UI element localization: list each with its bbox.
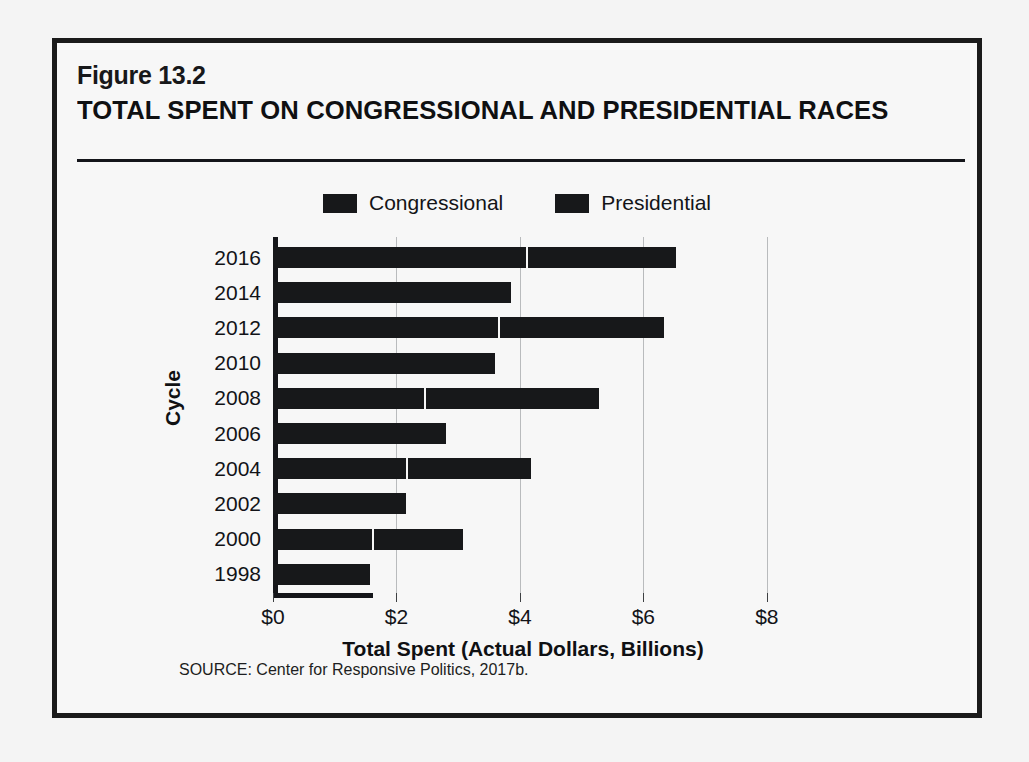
bar-segment-congressional: [273, 493, 406, 514]
y-tick-label: 2008: [191, 386, 261, 410]
bar-segment-congressional: [273, 282, 511, 303]
x-tick-mark: [396, 593, 397, 602]
gridline: [767, 237, 768, 593]
y-tick-label: 2002: [191, 492, 261, 516]
x-axis-title: Total Spent (Actual Dollars, Billions): [273, 637, 773, 661]
bar-segment-presidential: [424, 388, 599, 409]
y-tick-label: 2004: [191, 457, 261, 481]
y-tick-label: 2010: [191, 351, 261, 375]
bar-segment-congressional: [273, 317, 498, 338]
bar-segment-congressional: [273, 247, 526, 268]
bar-segment-congressional: [273, 353, 495, 374]
source-note: SOURCE: Center for Responsive Politics, …: [179, 661, 528, 679]
y-tick-label: 2014: [191, 281, 261, 305]
plot-area: Cycle $0$2$4$6$8 20162014201220102008200…: [57, 43, 977, 713]
x-axis-line: [273, 593, 373, 598]
y-tick-label: 2016: [191, 246, 261, 270]
x-tick-mark: [643, 593, 644, 602]
y-tick-label: 2006: [191, 422, 261, 446]
bar-segment-presidential: [526, 247, 676, 268]
y-tick-label: 2012: [191, 316, 261, 340]
x-tick-mark: [273, 593, 274, 602]
y-tick-label: 1998: [191, 562, 261, 586]
bar-segment-presidential: [372, 529, 464, 550]
y-axis-title: Cycle: [161, 370, 185, 426]
bar-segment-congressional: [273, 423, 446, 444]
x-tick-mark: [767, 593, 768, 602]
x-tick-label: $6: [632, 605, 655, 629]
x-tick-label: $8: [755, 605, 778, 629]
x-tick-mark: [520, 593, 521, 602]
bar-segment-presidential: [406, 458, 531, 479]
plot-canvas: $0$2$4$6$8 20162014201220102008200620042…: [273, 241, 773, 593]
bar-segment-presidential: [498, 317, 664, 338]
bar-segment-congressional: [273, 388, 424, 409]
bar-segment-congressional: [273, 529, 372, 550]
figure-frame: Figure 13.2 TOTAL SPENT ON CONGRESSIONAL…: [52, 38, 982, 718]
gridline: [643, 237, 644, 593]
bar-segment-congressional: [273, 458, 406, 479]
x-tick-label: $2: [385, 605, 408, 629]
x-tick-label: $0: [261, 605, 284, 629]
gridline: [520, 237, 521, 593]
x-tick-label: $4: [508, 605, 531, 629]
bar-segment-congressional: [273, 564, 370, 585]
y-tick-label: 2000: [191, 527, 261, 551]
